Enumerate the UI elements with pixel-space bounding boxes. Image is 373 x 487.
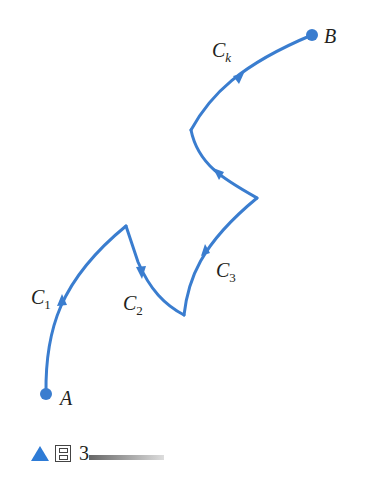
point-a-label: A <box>60 388 72 408</box>
path-diagram <box>0 0 373 487</box>
figure-number: 3 <box>79 442 89 465</box>
curve-c3-label: C3 <box>216 260 236 284</box>
curve-ck <box>191 35 312 130</box>
curve-c2-label: C2 <box>123 293 143 317</box>
figure-glyph-icon <box>55 445 71 462</box>
curve-connector <box>191 130 257 198</box>
point-a-dot <box>40 388 52 400</box>
point-b-dot <box>306 29 318 41</box>
curve-c1-label: C1 <box>31 287 51 311</box>
caption-bar <box>89 455 164 460</box>
point-b-label: B <box>324 26 336 46</box>
figure-stage: A B C1 C2 C3 Ck 3 <box>0 0 373 487</box>
figure-caption: 3 <box>31 442 164 464</box>
curve-c3 <box>184 198 257 315</box>
curve-ck-label: Ck <box>212 40 231 64</box>
triangle-icon <box>31 446 49 461</box>
curve-c1 <box>46 226 126 394</box>
